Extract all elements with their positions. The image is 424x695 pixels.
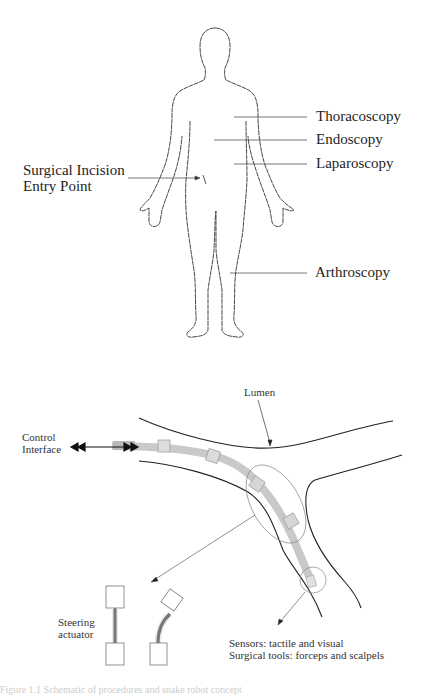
label-arthroscopy: Arthroscopy bbox=[315, 265, 390, 280]
robot-segment bbox=[158, 440, 170, 452]
label-laparoscopy: Laparoscopy bbox=[316, 156, 393, 171]
label-lumen: Lumen bbox=[244, 387, 275, 398]
label-sensors: Sensors: tactile and visual bbox=[229, 638, 344, 649]
label-steering-line2: actuator bbox=[58, 629, 93, 640]
steering-actuator-straight bbox=[106, 586, 124, 665]
label-control-line2: Interface bbox=[22, 444, 61, 455]
label-surgical-tools: Surgical tools: forceps and scalpels bbox=[229, 650, 384, 661]
lumen-pointer bbox=[258, 400, 272, 446]
body-leader-lines bbox=[128, 117, 307, 273]
robot-tip bbox=[306, 575, 317, 588]
label-thoracoscopy: Thoracoscopy bbox=[316, 109, 401, 124]
label-incision-line2: Entry Point bbox=[23, 179, 92, 194]
label-control-line1: Control bbox=[22, 432, 56, 443]
label-endoscopy: Endoscopy bbox=[316, 132, 383, 147]
steering-actuator-bent bbox=[150, 589, 183, 665]
label-steering-line1: Steering bbox=[58, 617, 95, 628]
snake-robot bbox=[112, 440, 316, 588]
figure-caption: Figure 1.1 Schematic of procedures and s… bbox=[0, 684, 242, 695]
label-incision-line1: Surgical Incision bbox=[23, 163, 125, 178]
highlight-ellipses bbox=[234, 455, 326, 593]
human-body-outline bbox=[140, 28, 294, 337]
